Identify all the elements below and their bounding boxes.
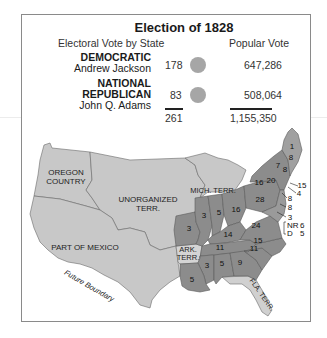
vote-ohio: 16 [232, 205, 241, 214]
vote-sc: 11 [250, 244, 259, 253]
vote-alabama: 5 [220, 259, 225, 268]
label-ark-line2: TERR. [177, 253, 200, 262]
vote-nj: 8 [288, 203, 293, 212]
vote-illinois: 3 [202, 211, 207, 220]
vote-georgia: 9 [238, 258, 243, 267]
vote-tennessee: 11 [216, 243, 225, 252]
us-map-1828: OREGON COUNTRY UNORGANIZED TERR. PART OF… [0, 0, 327, 338]
vote-maine-nr: 1 [290, 142, 295, 151]
label-unorganized-line2: TERR. [136, 204, 160, 213]
vote-vt: 7 [276, 161, 281, 170]
vote-kentucky: 14 [224, 230, 233, 239]
label-oregon-line2: COUNTRY [46, 177, 86, 186]
vote-ct: 8 [288, 194, 293, 203]
vote-mississippi: 3 [205, 261, 210, 270]
vote-indiana: 5 [217, 208, 222, 217]
label-oregon-line1: OREGON [48, 168, 84, 177]
vote-missouri: 3 [187, 224, 192, 233]
md-d-label: D [287, 229, 293, 238]
vote-ri: 4 [297, 189, 302, 198]
label-mich-terr: MICH. TERR. [190, 186, 236, 195]
vote-ny-west: 16 [255, 178, 264, 187]
vote-pa: 28 [256, 195, 265, 204]
maryland-bracket [284, 222, 286, 234]
vote-virginia: 24 [252, 221, 261, 230]
vote-nh: 8 [283, 165, 288, 174]
label-mexico: PART OF MEXICO [51, 243, 119, 252]
vote-maine-d: 8 [289, 153, 294, 162]
vote-louisiana: 5 [190, 275, 195, 284]
vote-ny: 20 [267, 176, 276, 185]
md-d-votes: 5 [300, 229, 305, 238]
label-unorganized-line1: UNORGANIZED [118, 195, 177, 204]
leader-line-ri [288, 187, 296, 193]
